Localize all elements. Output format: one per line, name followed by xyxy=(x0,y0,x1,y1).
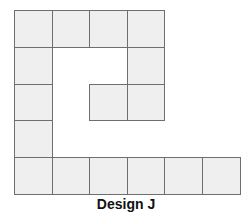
grid-square xyxy=(52,10,90,48)
grid-square xyxy=(127,157,165,195)
grid-square xyxy=(52,157,90,195)
grid-square xyxy=(14,47,53,85)
grid-square xyxy=(127,47,165,85)
grid-square xyxy=(89,84,128,121)
figure-caption: Design J xyxy=(0,196,252,212)
grid-square xyxy=(127,84,165,121)
grid-square xyxy=(89,157,128,195)
grid-square xyxy=(89,10,128,48)
grid-square xyxy=(164,157,203,195)
grid-square xyxy=(202,157,241,195)
grid-square xyxy=(14,157,53,195)
grid-square xyxy=(14,10,53,48)
grid-square xyxy=(127,10,165,48)
grid-square xyxy=(14,84,53,121)
grid-square xyxy=(14,120,53,158)
